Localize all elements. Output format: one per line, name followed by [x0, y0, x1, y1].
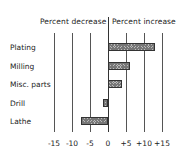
x-tick-label: -5	[86, 139, 93, 148]
bar	[81, 117, 108, 125]
x-tick-label: +10	[136, 139, 152, 148]
gridline	[162, 33, 163, 132]
bar	[108, 43, 155, 51]
x-tick-label: +15	[154, 139, 170, 148]
x-tick-label: +5	[120, 139, 131, 148]
gridline	[54, 33, 55, 132]
category-label: Lathe	[10, 117, 31, 126]
x-tick-label: -10	[66, 139, 78, 148]
category-label: Plating	[10, 43, 36, 52]
header-decrease: Percent decrease	[40, 17, 106, 26]
category-label: Misc. parts	[10, 80, 51, 89]
gridline	[108, 17, 109, 132]
bar	[108, 62, 130, 70]
x-tick-label: 0	[106, 139, 111, 148]
header-increase: Percent increase	[112, 17, 176, 26]
category-label: Drill	[10, 99, 25, 108]
bar	[108, 80, 122, 88]
category-label: Milling	[10, 62, 34, 71]
x-tick-label: -15	[48, 139, 60, 148]
bar	[103, 99, 108, 107]
gridline	[72, 33, 73, 132]
